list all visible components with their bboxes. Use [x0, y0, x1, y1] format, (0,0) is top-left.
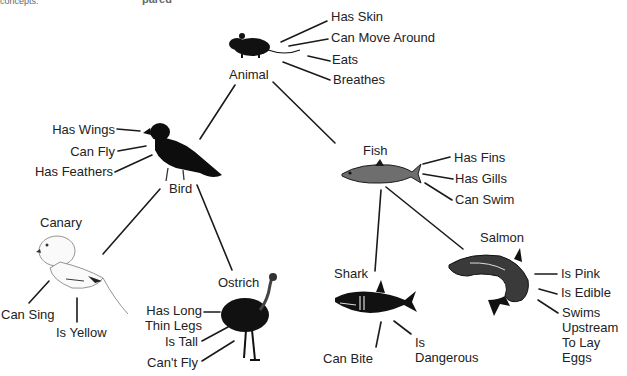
salmon-prop-is-edible: Is Edible — [561, 285, 611, 300]
bird-prop-has-feathers: Has Feathers — [35, 164, 113, 179]
animal-prop-can-move: Can Move Around — [331, 30, 435, 45]
semantic-network-lines — [0, 0, 627, 376]
fish-prop-has-fins: Has Fins — [454, 150, 505, 165]
animal-prop-has-skin: Has Skin — [331, 9, 383, 24]
node-animal: Animal — [229, 67, 269, 82]
fish-prop-has-gills: Has Gills — [455, 171, 507, 186]
fish-prop-can-swim: Can Swim — [455, 192, 514, 207]
canary-illustration — [36, 236, 128, 314]
salmon-prop-swims-upstream: Swims Upstream To Lay Eggs — [562, 305, 618, 365]
node-ostrich: Ostrich — [218, 275, 259, 290]
ostrich-prop-cant-fly: Can't Fly — [147, 355, 198, 370]
node-salmon: Salmon — [480, 230, 524, 245]
salmon-prop-is-pink: Is Pink — [561, 266, 600, 281]
node-fish: Fish — [363, 143, 388, 158]
canary-prop-can-sing: Can Sing — [1, 307, 54, 322]
bird-prop-has-wings: Has Wings — [52, 122, 115, 137]
ostrich-prop-long-legs: Has Long Thin Legs — [145, 303, 202, 333]
ostrich-prop-is-tall: Is Tall — [165, 334, 198, 349]
animal-prop-eats: Eats — [332, 52, 358, 67]
salmon-illustration — [449, 248, 528, 316]
animal-prop-breathes: Breathes — [333, 72, 385, 87]
shark-prop-dangerous: Is Dangerous — [415, 335, 479, 365]
crow-illustration — [143, 123, 222, 181]
node-bird: Bird — [169, 181, 192, 196]
shark-prop-can-bite: Can Bite — [323, 351, 373, 366]
canary-prop-is-yellow: Is Yellow — [56, 325, 107, 340]
shark-illustration — [335, 280, 417, 313]
node-canary: Canary — [40, 215, 82, 230]
bird-prop-can-fly: Can Fly — [70, 144, 115, 159]
node-shark: Shark — [334, 266, 368, 281]
fish-illustration — [342, 159, 421, 183]
